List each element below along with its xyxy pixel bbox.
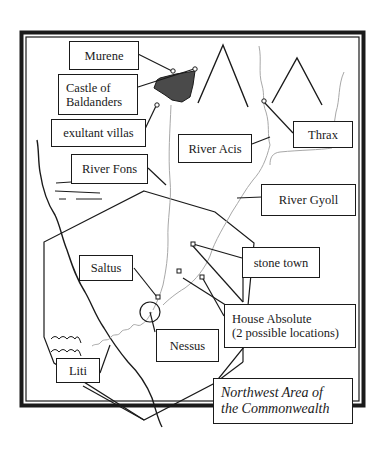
label-thrax: Thrax bbox=[293, 121, 353, 148]
label-river-acis: River Acis bbox=[178, 134, 252, 163]
label-exultant-villas: exultant villas bbox=[51, 119, 146, 147]
label-saltus-text: Saltus bbox=[91, 261, 122, 275]
label-murene-text: Murene bbox=[85, 49, 124, 63]
map-title-box: Northwest Area of the Commonwealth bbox=[213, 378, 353, 424]
label-nessus: Nessus bbox=[156, 329, 219, 362]
house-absolute-square-icon bbox=[177, 269, 181, 273]
label-liti: Liti bbox=[56, 358, 100, 383]
label-castle-of-baldanders: Castle of Baldanders bbox=[58, 74, 138, 115]
label-nessus-text: Nessus bbox=[170, 339, 205, 353]
label-river-acis-text: River Acis bbox=[188, 142, 241, 156]
label-exultant-villas-text: exultant villas bbox=[63, 126, 133, 140]
label-castle-line1: Castle of bbox=[66, 81, 111, 95]
river-gyoll bbox=[92, 312, 152, 346]
label-house-absolute: House Absolute (2 possible locations) bbox=[224, 304, 356, 348]
label-liti-text: Liti bbox=[69, 364, 87, 378]
map-title-line2: the Commonwealth bbox=[221, 401, 330, 417]
label-castle-line2: Baldanders bbox=[66, 95, 122, 109]
mountain-icon bbox=[198, 45, 248, 107]
waves-icon bbox=[51, 337, 81, 357]
saltus-square-icon bbox=[156, 295, 160, 299]
label-river-gyoll: River Gyoll bbox=[261, 184, 356, 216]
label-river-fons: River Fons bbox=[71, 154, 148, 184]
label-river-fons-text: River Fons bbox=[82, 162, 137, 176]
marsh-lines bbox=[55, 182, 102, 199]
label-stone-town-text: stone town bbox=[254, 256, 309, 270]
villas-point-icon bbox=[155, 103, 159, 107]
house-absolute-square-icon bbox=[200, 275, 204, 279]
label-house-absolute-line2: (2 possible locations) bbox=[232, 326, 339, 340]
label-river-gyoll-text: River Gyoll bbox=[279, 193, 338, 207]
stone-town-square-icon bbox=[191, 242, 195, 246]
label-thrax-text: Thrax bbox=[308, 128, 338, 142]
label-house-absolute-line1: House Absolute bbox=[232, 312, 312, 326]
mountain-icon bbox=[272, 58, 322, 105]
label-saltus: Saltus bbox=[79, 255, 133, 281]
label-stone-town: stone town bbox=[242, 247, 320, 278]
castle-point-icon bbox=[193, 67, 197, 71]
label-murene: Murene bbox=[69, 41, 139, 70]
murene-point-icon bbox=[171, 69, 175, 73]
map-title-line1: Northwest Area of bbox=[221, 385, 323, 401]
thrax-point-icon bbox=[262, 99, 266, 103]
river-fons bbox=[153, 105, 171, 310]
